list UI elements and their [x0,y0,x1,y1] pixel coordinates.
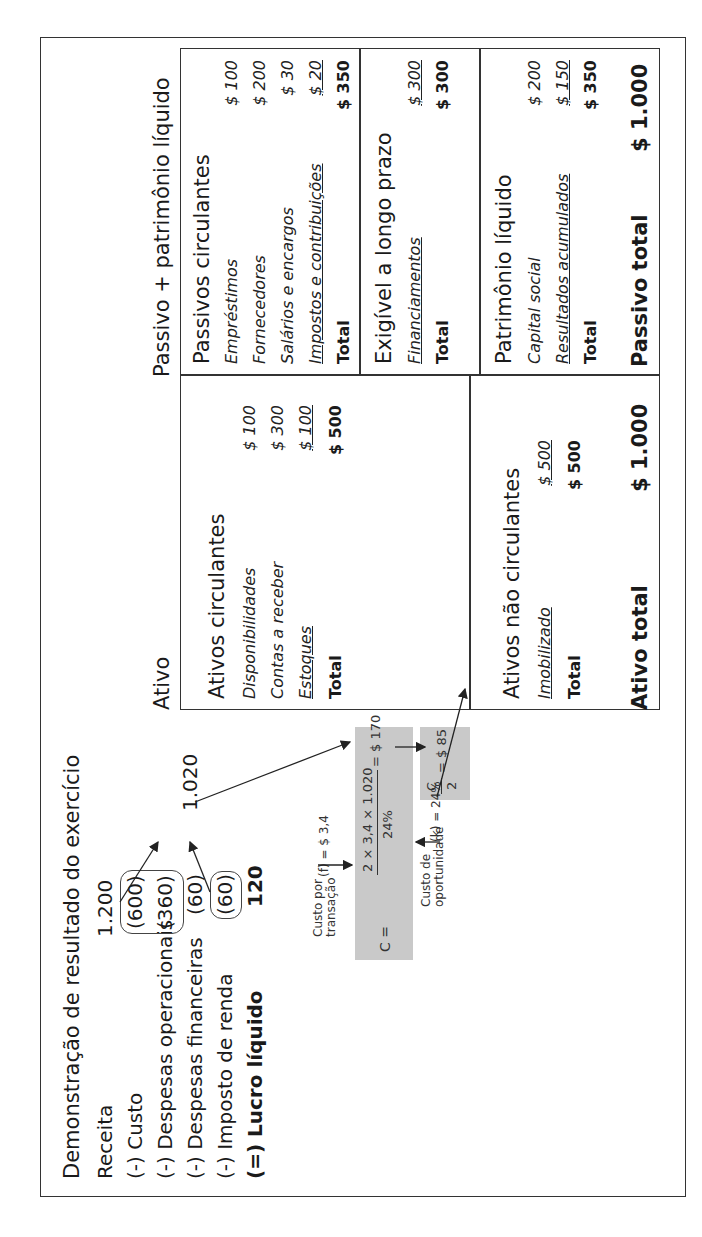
arrow-costs-to-total [120,842,158,902]
rotated-diagram-canvas: Demonstração de resultado do exercício R… [0,0,702,1237]
arrow-tax-to-total [190,842,210,892]
arrow-total-to-formula [195,742,350,802]
arrow-half-to-cash [437,689,465,797]
connector-arrows [0,0,702,1237]
